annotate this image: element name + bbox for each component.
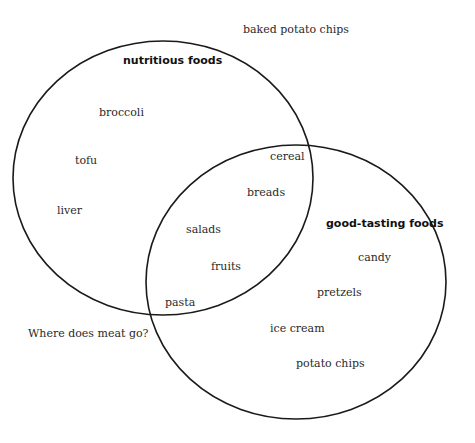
item-potato-chips: potato chips (296, 358, 365, 369)
item-broccoli: broccoli (99, 107, 144, 118)
nutritious-foods-circle (13, 41, 313, 315)
good-tasting-foods-circle (146, 145, 446, 419)
item-fruits: fruits (211, 261, 241, 272)
item-baked-potato-chips: baked potato chips (243, 24, 349, 35)
item-tofu: tofu (75, 155, 97, 166)
item-pasta: pasta (165, 297, 195, 308)
item-salads: salads (186, 224, 221, 235)
meat-question: Where does meat go? (28, 328, 148, 339)
item-liver: liver (57, 205, 82, 216)
item-pretzels: pretzels (317, 287, 362, 298)
item-cereal: cereal (270, 151, 305, 162)
nutritious-foods-title: nutritious foods (123, 55, 222, 66)
item-ice-cream: ice cream (270, 323, 325, 334)
item-breads: breads (247, 187, 285, 198)
good-tasting-foods-title: good-tasting foods (326, 218, 444, 229)
item-candy: candy (358, 252, 391, 263)
